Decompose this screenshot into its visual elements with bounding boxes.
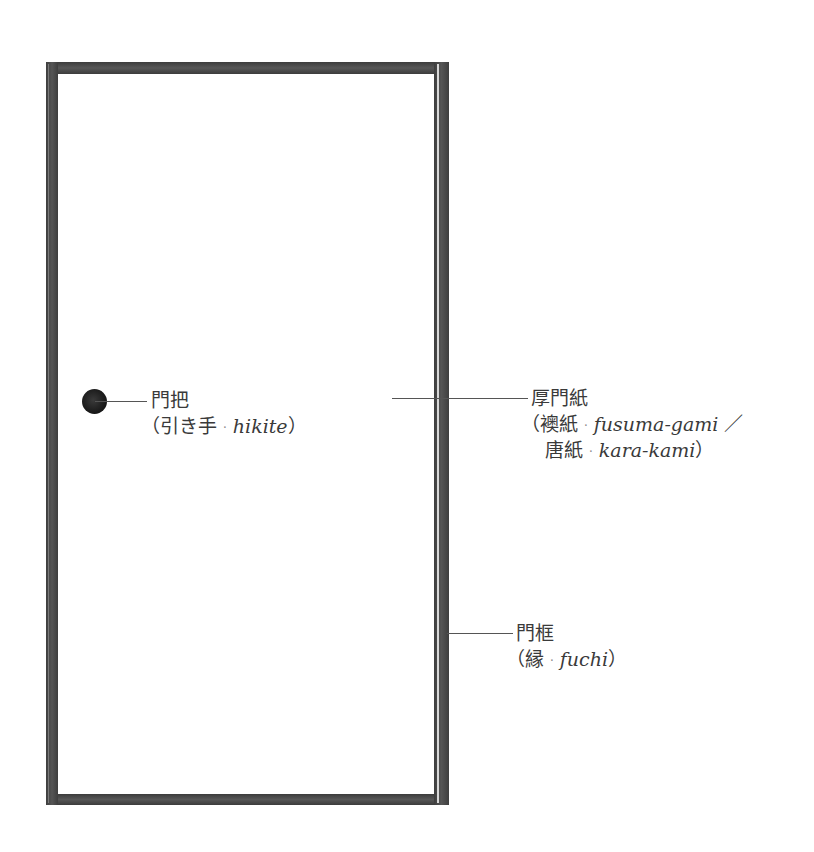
paper-label-romaji-fusuma: fusuma-gami <box>594 413 719 435</box>
paper-label-romaji-kara: kara-kami <box>599 439 696 461</box>
frame-label: 門框 <box>516 621 554 646</box>
frame-right-edge-highlight <box>437 64 439 803</box>
frame-bottom-rail <box>46 794 449 805</box>
paper-label-detail-line1: （襖紙·fusuma-gami ／ <box>521 412 743 439</box>
frame-label-romaji: fuchi <box>560 648 608 670</box>
paper-label: 厚門紙 <box>531 386 588 411</box>
handle-leader-line <box>95 401 147 402</box>
paper-label-jp-fusuma: 襖紙 <box>540 413 578 435</box>
frame-leader-line <box>447 633 513 634</box>
handle-label: 門把 <box>151 388 189 413</box>
handle-label-detail: （引き手·hikite） <box>141 414 307 441</box>
frame-left-edge-highlight <box>48 64 49 803</box>
frame-top-rail <box>46 62 449 74</box>
frame-label-jp: 縁 <box>525 648 544 670</box>
paper-label-detail-line2: 唐紙·kara-kami） <box>545 438 714 465</box>
handle-label-title: 門把 <box>151 389 189 411</box>
handle-label-jp: 引き手 <box>160 415 217 437</box>
paper-label-title: 厚門紙 <box>531 387 588 409</box>
frame-label-detail: （縁·fuchi） <box>506 647 627 674</box>
paper-label-jp-kara: 唐紙 <box>545 439 583 461</box>
frame-label-title: 門框 <box>516 622 554 644</box>
paper-leader-line <box>392 398 528 399</box>
handle-label-romaji: hikite <box>233 415 288 437</box>
